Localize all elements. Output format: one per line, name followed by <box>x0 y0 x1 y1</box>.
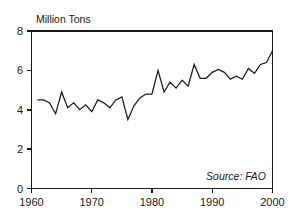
x-tick-label-1960: 1960 <box>19 196 43 208</box>
y-tick-label-8: 8 <box>17 25 23 37</box>
y-tick-label-2: 2 <box>17 143 23 155</box>
x-tick-label-1980: 1980 <box>140 196 164 208</box>
chart-background <box>0 0 295 224</box>
line-chart: 0 2 4 6 8 1960 1970 1980 1990 2000 Milli… <box>0 0 295 224</box>
y-tick-label-0: 0 <box>17 183 23 195</box>
x-tick-label-1970: 1970 <box>80 196 104 208</box>
y-axis-label: Million Tons <box>36 13 91 25</box>
x-tick-label-1990: 1990 <box>200 196 224 208</box>
y-tick-label-4: 4 <box>17 104 23 116</box>
source-annotation: Source: FAO <box>206 170 266 182</box>
x-tick-label-2000: 2000 <box>260 196 284 208</box>
y-tick-label-6: 6 <box>17 64 23 76</box>
chart-figure: 0 2 4 6 8 1960 1970 1980 1990 2000 Milli… <box>0 0 295 224</box>
